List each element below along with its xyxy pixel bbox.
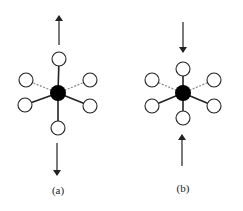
ligand-atom-upper-right <box>207 73 221 87</box>
ligand-atom-lower-right <box>207 99 221 113</box>
central-atom <box>50 85 66 101</box>
ligand-atom-upper-left <box>19 73 33 87</box>
ligand-atom-lower-left <box>145 99 159 113</box>
ligand-atom-upper-left <box>145 73 159 87</box>
diagram-canvas: (a) (b) <box>0 0 243 211</box>
panel-b-label: (b) <box>177 182 190 195</box>
ligand-atom-lower-right <box>83 99 97 113</box>
ligand-atom-top <box>52 52 66 66</box>
ligand-atom-bottom <box>51 121 65 135</box>
ligand-atom-top <box>176 62 190 76</box>
panel-a <box>18 16 97 175</box>
ligand-atom-upper-right <box>83 73 97 87</box>
ligand-atom-lower-left <box>18 98 32 112</box>
panel-b <box>145 22 221 166</box>
ligand-atom-bottom <box>176 111 190 125</box>
central-atom <box>175 85 191 101</box>
panel-a-label: (a) <box>52 184 65 197</box>
